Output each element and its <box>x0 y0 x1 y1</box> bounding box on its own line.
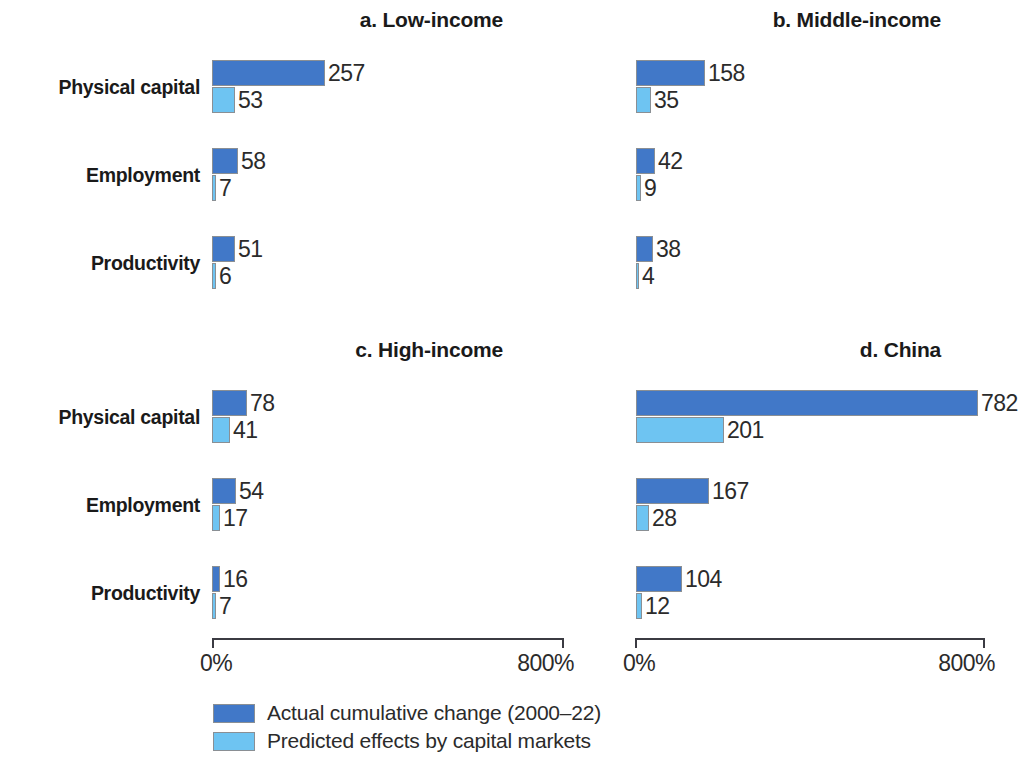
bar-value-predicted: 6 <box>216 263 231 289</box>
bar-actual[interactable] <box>636 60 705 86</box>
group-productivity: 104 12 <box>511 566 1022 632</box>
legend-item-actual[interactable]: Actual cumulative change (2000–22) <box>213 699 813 727</box>
bar-value-predicted: 7 <box>216 175 231 201</box>
bar-predicted[interactable] <box>212 505 220 531</box>
panel-c-plot: Physical capital 78 41 Employment 54 <box>0 330 511 660</box>
bar-row-actual: 167 <box>636 478 749 504</box>
group-productivity: Productivity 16 7 <box>0 566 511 632</box>
bar-row-actual: 78 <box>212 390 275 416</box>
x-axis-right-tick-start: 0% <box>623 650 655 677</box>
legend-label-predicted: Predicted effects by capital markets <box>255 729 591 753</box>
x-axis-right: 0% 800% <box>635 638 985 684</box>
panel-a-low-income: a. Low-income Physical capital 257 53 Em… <box>0 0 511 330</box>
bar-value-actual: 54 <box>236 478 264 504</box>
group-physical-capital: 782 201 <box>511 390 1022 456</box>
bar-actual[interactable] <box>212 566 220 592</box>
bar-actual[interactable] <box>212 390 247 416</box>
bar-value-actual: 51 <box>235 236 263 262</box>
bar-row-actual: 42 <box>636 148 683 174</box>
group-employment: 42 9 <box>511 148 1022 214</box>
x-axis-left: 0% 800% <box>212 638 564 684</box>
bar-value-predicted: 9 <box>641 175 656 201</box>
bar-actual[interactable] <box>212 478 236 504</box>
bar-predicted[interactable] <box>212 87 235 113</box>
bar-row-actual: 54 <box>212 478 264 504</box>
bar-value-actual: 78 <box>247 390 275 416</box>
bar-value-actual: 42 <box>655 148 683 174</box>
bar-row-predicted: 4 <box>636 263 654 289</box>
bar-row-actual: 38 <box>636 236 681 262</box>
bar-value-predicted: 7 <box>216 593 231 619</box>
bar-actual[interactable] <box>636 236 653 262</box>
legend-label-actual: Actual cumulative change (2000–22) <box>255 701 601 725</box>
bar-actual[interactable] <box>212 236 235 262</box>
legend-item-predicted[interactable]: Predicted effects by capital markets <box>213 727 813 755</box>
bar-row-predicted: 6 <box>212 263 231 289</box>
bar-predicted[interactable] <box>636 417 724 443</box>
bar-value-actual: 38 <box>653 236 681 262</box>
bar-value-actual: 158 <box>705 60 745 86</box>
bar-row-actual: 51 <box>212 236 263 262</box>
category-label-physical-capital: Physical capital <box>0 406 200 429</box>
category-label-employment: Employment <box>0 494 200 517</box>
legend-swatch-predicted-icon <box>213 732 255 751</box>
x-axis-right-tick-end: 800% <box>938 650 995 677</box>
bar-row-actual: 58 <box>212 148 266 174</box>
bar-actual[interactable] <box>636 566 682 592</box>
category-label-physical-capital: Physical capital <box>0 76 200 99</box>
group-physical-capital: Physical capital 257 53 <box>0 60 511 126</box>
bar-actual[interactable] <box>212 60 325 86</box>
figure-four-panel-bar-chart: a. Low-income Physical capital 257 53 Em… <box>0 0 1022 760</box>
group-physical-capital: 158 35 <box>511 60 1022 126</box>
bar-value-predicted: 35 <box>651 87 679 113</box>
bar-value-predicted: 41 <box>230 417 258 443</box>
bar-predicted[interactable] <box>636 87 651 113</box>
bar-row-predicted: 201 <box>636 417 764 443</box>
bar-row-actual: 16 <box>212 566 248 592</box>
x-axis-left-line <box>212 638 564 648</box>
group-employment: Employment 54 17 <box>0 478 511 544</box>
panel-d-china: d. China 782 201 167 <box>511 330 1022 660</box>
bar-actual[interactable] <box>636 478 709 504</box>
category-label-productivity: Productivity <box>0 582 200 605</box>
bar-row-predicted: 7 <box>212 175 231 201</box>
bar-row-predicted: 12 <box>636 593 670 619</box>
bar-value-predicted: 4 <box>639 263 654 289</box>
panel-d-plot: 782 201 167 28 <box>511 330 1022 660</box>
bar-value-predicted: 12 <box>642 593 670 619</box>
group-employment: Employment 58 7 <box>0 148 511 214</box>
panel-c-high-income: c. High-income Physical capital 78 41 Em… <box>0 330 511 660</box>
bar-row-actual: 257 <box>212 60 365 86</box>
legend: Actual cumulative change (2000–22) Predi… <box>213 699 813 755</box>
bar-predicted[interactable] <box>212 417 230 443</box>
bar-value-actual: 104 <box>682 566 722 592</box>
bar-row-actual: 782 <box>636 390 1018 416</box>
group-productivity: 38 4 <box>511 236 1022 302</box>
x-axis-right-line <box>635 638 985 648</box>
bar-value-actual: 782 <box>978 390 1018 416</box>
group-productivity: Productivity 51 6 <box>0 236 511 302</box>
bar-actual[interactable] <box>212 148 238 174</box>
bar-row-predicted: 7 <box>212 593 231 619</box>
bar-value-predicted: 28 <box>649 505 677 531</box>
bar-actual[interactable] <box>636 148 655 174</box>
bar-value-actual: 167 <box>709 478 749 504</box>
panel-b-middle-income: b. Middle-income 158 35 42 <box>511 0 1022 330</box>
x-axis-left-tick-start: 0% <box>200 650 232 677</box>
legend-swatch-actual-icon <box>213 704 255 723</box>
bar-actual[interactable] <box>636 390 978 416</box>
group-physical-capital: Physical capital 78 41 <box>0 390 511 456</box>
bar-value-predicted: 17 <box>220 505 248 531</box>
panel-a-plot: Physical capital 257 53 Employment 58 <box>0 0 511 330</box>
bar-value-predicted: 53 <box>235 87 263 113</box>
bar-predicted[interactable] <box>636 505 649 531</box>
bar-row-actual: 158 <box>636 60 745 86</box>
bar-row-predicted: 9 <box>636 175 656 201</box>
bar-row-predicted: 53 <box>212 87 263 113</box>
panel-b-plot: 158 35 42 9 <box>511 0 1022 330</box>
bar-row-predicted: 35 <box>636 87 679 113</box>
bar-value-actual: 257 <box>325 60 365 86</box>
category-label-productivity: Productivity <box>0 252 200 275</box>
bar-value-predicted: 201 <box>724 417 764 443</box>
bar-value-actual: 16 <box>220 566 248 592</box>
